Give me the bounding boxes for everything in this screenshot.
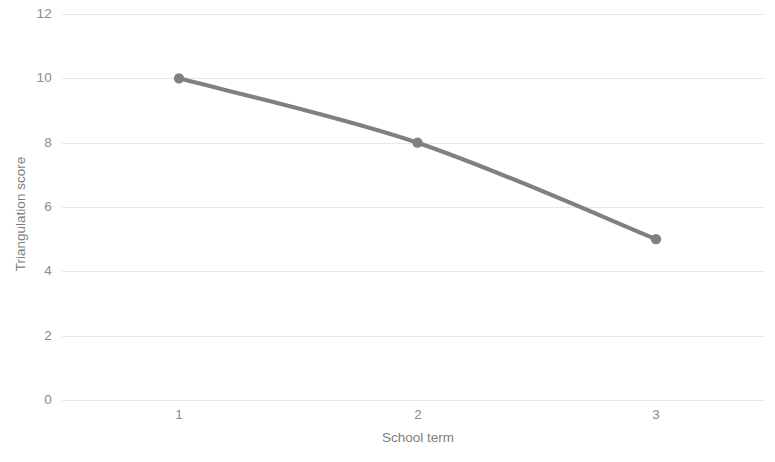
series-line-triangulation-score — [179, 78, 656, 239]
series-layer — [0, 0, 775, 462]
data-point-term-2 — [412, 137, 422, 147]
series-markers — [174, 73, 661, 244]
data-point-term-3 — [651, 234, 661, 244]
data-point-term-1 — [174, 73, 184, 83]
line-chart: 12 10 8 6 4 2 0 1 2 3 School term Triang… — [0, 0, 775, 462]
